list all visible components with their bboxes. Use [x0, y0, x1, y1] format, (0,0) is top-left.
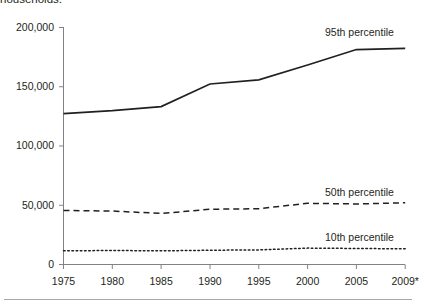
series-line-95th-percentile — [64, 48, 406, 113]
series-label-10th-percentile: 10th percentile — [325, 231, 394, 243]
x-tick-label-1990: 1990 — [188, 275, 232, 287]
bottom-divider-rule — [4, 299, 412, 300]
series-label-50th-percentile: 50th percentile — [325, 186, 394, 198]
y-tick-label-200000: 200,000 — [2, 21, 54, 33]
x-tick-label-1985: 1985 — [139, 275, 183, 287]
x-tick-label-2005: 2005 — [334, 275, 378, 287]
x-tick-label-2009: 2009* — [383, 275, 424, 287]
x-axis-ticks — [64, 265, 406, 270]
series-label-95th-percentile: 95th percentile — [325, 26, 394, 38]
x-tick-label-2000: 2000 — [286, 275, 330, 287]
y-axis-ticks — [59, 28, 64, 265]
y-tick-label-0: 0 — [2, 258, 54, 270]
series-line-10th-percentile — [64, 248, 406, 251]
x-tick-label-1995: 1995 — [237, 275, 281, 287]
y-tick-label-150000: 150,000 — [2, 80, 54, 92]
y-tick-label-100000: 100,000 — [2, 139, 54, 151]
x-tick-label-1975: 1975 — [42, 275, 86, 287]
y-tick-label-50000: 50,000 — [2, 199, 54, 211]
series-line-50th-percentile — [64, 203, 406, 214]
x-tick-label-1980: 1980 — [90, 275, 134, 287]
